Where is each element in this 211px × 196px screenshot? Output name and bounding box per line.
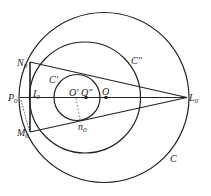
line-M0-L0: [30, 98, 187, 133]
geometry-diagram: N0 M0 P0 I0 L0 n0 O' O'' O C' C'' C: [0, 0, 211, 196]
label-n0: n0: [78, 121, 87, 134]
label-P0: P0: [7, 92, 18, 105]
label-O: O: [102, 86, 109, 97]
label-I0: I0: [32, 88, 40, 101]
label-M0: M0: [16, 127, 29, 140]
label-C-double-prime: C'': [131, 55, 143, 66]
label-O-prime: O': [69, 87, 79, 98]
label-C: C: [170, 153, 177, 164]
label-C-prime: C': [49, 74, 59, 85]
segment-P0-M0: [21, 100, 29, 130]
label-O-double-prime: O'': [81, 87, 93, 98]
radius-Oprime-n0: [76, 98, 80, 120]
label-N0: N0: [16, 57, 28, 70]
label-L0: L0: [188, 92, 199, 105]
